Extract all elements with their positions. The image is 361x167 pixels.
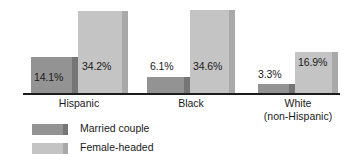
grouped-bar-chart: 14.1% 34.2% 6.1% 34.6% 3.3% 16.9% [0,0,361,167]
category-label-hispanic: Hispanic [29,97,129,110]
legend-swatch-married-couple [32,124,68,135]
legend-label-married-couple: Married couple [80,122,149,134]
bar-face [147,77,184,93]
value-label-female-hispanic: 34.2% [82,60,111,72]
category-label-black: Black [141,97,241,110]
swatch-face [32,124,63,135]
category-label-line1: White [285,97,312,109]
bar-face [258,84,289,93]
legend-swatch-female-headed [32,143,68,154]
value-label-married-hispanic: 14.1% [34,71,63,83]
swatch-face [32,143,63,154]
x-axis-baseline [23,93,340,95]
swatch-side-face [63,124,68,135]
bar-face [78,11,122,93]
legend-label-female-headed: Female-headed [80,141,154,153]
category-label-line1: Hispanic [59,97,99,109]
swatch-side-face [63,143,68,154]
category-label-white: White (non-Hispanic) [248,97,348,122]
bar-side-face [332,52,338,93]
bar-female-black [190,10,235,93]
bar-married-white [258,84,295,93]
bar-female-hispanic [78,11,128,93]
bar-married-black [147,77,190,93]
plot-area: 14.1% 34.2% 6.1% 34.6% 3.3% 16.9% [0,0,361,95]
bar-side-face [229,10,235,93]
value-label-married-white: 3.3% [258,68,282,80]
bar-face [190,10,229,93]
bar-side-face [122,11,128,93]
category-label-line1: Black [178,97,204,109]
value-label-female-white: 16.9% [298,56,327,68]
category-label-line2: (non-Hispanic) [248,110,348,123]
value-label-married-black: 6.1% [150,60,174,72]
value-label-female-black: 34.6% [193,60,222,72]
